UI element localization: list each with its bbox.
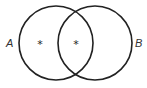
asterisk-intersection: * bbox=[73, 38, 79, 51]
circle-a bbox=[19, 6, 93, 80]
label-a: A bbox=[5, 37, 13, 49]
asterisk-a-only: * bbox=[37, 38, 43, 51]
label-b: B bbox=[135, 37, 142, 49]
venn-diagram: A B * * bbox=[0, 0, 147, 88]
circle-b bbox=[58, 6, 132, 80]
